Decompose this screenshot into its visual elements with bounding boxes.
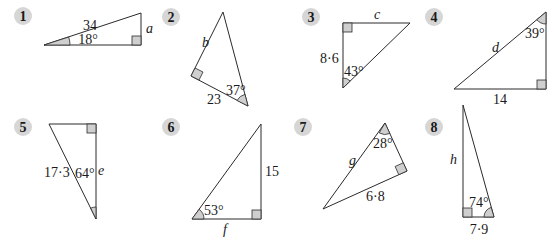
hypotenuse-label: 17·3: [44, 165, 70, 180]
hypotenuse-label: 34: [83, 18, 97, 33]
problem-number: 7: [300, 120, 307, 135]
right-angle-marker: [191, 68, 203, 80]
angle-label: 74°: [469, 195, 489, 210]
problem-number: 5: [20, 120, 27, 135]
unknown-label: c: [374, 7, 381, 22]
angle-label: 53°: [204, 203, 224, 218]
problem-number: 8: [431, 120, 438, 135]
angle-label: 64°: [75, 166, 95, 181]
right-angle-marker: [87, 124, 96, 133]
angle-label: 37°: [226, 83, 246, 98]
angle-marker: [343, 78, 350, 88]
problem-number: 1: [20, 9, 27, 24]
problem-2: 2 b 37° 23: [162, 8, 248, 107]
angle-label: 39°: [525, 26, 545, 41]
triangle: [192, 124, 261, 219]
problem-4: 4 d 39° 14: [425, 8, 546, 107]
problem-8: 8 h 74° 7·9: [425, 105, 494, 237]
unknown-label: a: [146, 21, 153, 36]
problem-number: 6: [168, 120, 175, 135]
unknown-label: b: [202, 35, 209, 50]
right-angle-marker: [252, 210, 261, 219]
side-label: 14: [493, 92, 507, 107]
side-label: 15: [265, 164, 279, 179]
problem-number: 2: [168, 10, 175, 25]
right-angle-marker: [132, 36, 141, 45]
angle-label: 43°: [344, 64, 364, 79]
unknown-label: g: [349, 153, 356, 168]
side-label: 8·6: [320, 51, 339, 66]
angle-label: 28°: [373, 136, 393, 151]
angle-marker: [192, 209, 204, 219]
right-angle-marker: [395, 163, 407, 175]
triangle: [323, 123, 407, 209]
angle-label: 18°: [78, 32, 98, 47]
right-angle-marker: [343, 23, 352, 32]
unknown-label: h: [450, 152, 457, 167]
unknown-label: d: [492, 40, 500, 55]
angle-marker: [44, 37, 70, 45]
trig-exercise-page: 1 34 18° a 2 b 37° 23 3 c 8·6 43° 4 d 3: [0, 0, 554, 242]
problem-1: 1 34 18° a: [14, 7, 153, 47]
problem-3: 3 c 8·6 43°: [302, 7, 410, 88]
problem-6: 6 15 53° f: [162, 118, 279, 237]
unknown-label: f: [223, 222, 229, 237]
problem-7: 7 g 28° 6·8: [294, 118, 407, 209]
right-angle-marker: [537, 80, 546, 89]
side-label: 23: [207, 92, 221, 107]
problem-5: 5 17·3 64° e: [14, 118, 104, 219]
angle-marker: [91, 207, 96, 219]
side-label: 7·9: [470, 222, 489, 237]
unknown-label: e: [98, 163, 104, 178]
problem-number: 4: [431, 10, 438, 25]
problem-number: 3: [308, 10, 315, 25]
side-label: 6·8: [366, 189, 385, 204]
triangle: [454, 12, 546, 89]
